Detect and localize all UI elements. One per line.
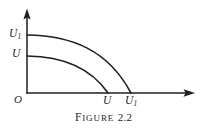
y-axis-label-u-main: U [12, 47, 20, 59]
y-axis-label-u: U [12, 48, 20, 60]
figure-caption: FIGURE 2.2 [0, 111, 207, 123]
origin-label: O [14, 94, 22, 105]
x-axis-label-u: U [103, 95, 111, 107]
figure-caption-number: 2.2 [118, 111, 132, 123]
x-axis-label-u1-main: U [125, 94, 133, 106]
y-axis-label-u1-subscript: 1 [18, 32, 22, 41]
figure-caption-word: IGURE [82, 113, 114, 123]
figure-container: U1 U U U1 O FIGURE 2.2 [0, 0, 207, 131]
x-axis-label-u1: U1 [125, 95, 137, 107]
y-axis-label-u1: U1 [9, 28, 21, 40]
outer-curve [27, 35, 131, 93]
inner-curve [27, 56, 108, 93]
x-axis-label-u1-subscript: 1 [134, 99, 138, 108]
y-axis-label-u1-main: U [9, 27, 17, 39]
x-axis-label-u-main: U [103, 94, 111, 106]
